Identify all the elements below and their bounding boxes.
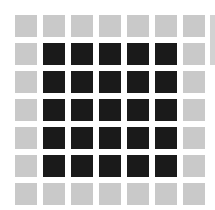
grid-cell-dark <box>43 127 65 149</box>
grid-cell-dark <box>71 71 93 93</box>
grid-cell-dark <box>155 99 177 121</box>
grid-cell-light <box>183 15 205 37</box>
grid-cell-light <box>15 155 37 177</box>
grid-cell-light <box>15 43 37 65</box>
grid-cell-light <box>71 183 93 205</box>
grid-cell-light <box>127 183 149 205</box>
grid-cell-light <box>15 127 37 149</box>
partial-edge-tile <box>210 15 215 65</box>
grid-cell-dark <box>127 99 149 121</box>
grid-cell-light <box>99 183 121 205</box>
grid-cell-dark <box>43 155 65 177</box>
grid-cell-dark <box>127 43 149 65</box>
grid-cell-light <box>183 155 205 177</box>
grid-cell-dark <box>71 127 93 149</box>
grid-cell-light <box>155 15 177 37</box>
grid-cell-light <box>127 15 149 37</box>
grid-cell-dark <box>43 99 65 121</box>
grid-cell-dark <box>155 155 177 177</box>
grid-cell-light <box>183 127 205 149</box>
grid-cell-light <box>15 71 37 93</box>
grid-cell-dark <box>127 155 149 177</box>
grid-cell-light <box>71 15 93 37</box>
grid-cell-dark <box>71 99 93 121</box>
grid-cell-dark <box>155 71 177 93</box>
grid-cell-dark <box>43 71 65 93</box>
grid-cell-light <box>183 43 205 65</box>
grid-cell-light <box>155 183 177 205</box>
grid-cell-dark <box>71 155 93 177</box>
grid-cell-dark <box>43 43 65 65</box>
grid-cell-dark <box>99 99 121 121</box>
grid-cell-light <box>99 15 121 37</box>
grid-cell-dark <box>99 127 121 149</box>
grid-cell-dark <box>127 71 149 93</box>
grid-cell-light <box>43 183 65 205</box>
grid-cell-light <box>183 99 205 121</box>
tile-grid <box>15 15 205 205</box>
grid-cell-dark <box>99 43 121 65</box>
grid-cell-dark <box>71 43 93 65</box>
grid-cell-dark <box>99 71 121 93</box>
grid-cell-dark <box>99 155 121 177</box>
grid-cell-dark <box>127 127 149 149</box>
grid-cell-light <box>15 15 37 37</box>
grid-cell-dark <box>155 127 177 149</box>
grid-cell-dark <box>155 43 177 65</box>
grid-cell-light <box>43 15 65 37</box>
grid-cell-light <box>15 99 37 121</box>
grid-cell-light <box>15 183 37 205</box>
grid-cell-light <box>183 183 205 205</box>
grid-cell-light <box>183 71 205 93</box>
